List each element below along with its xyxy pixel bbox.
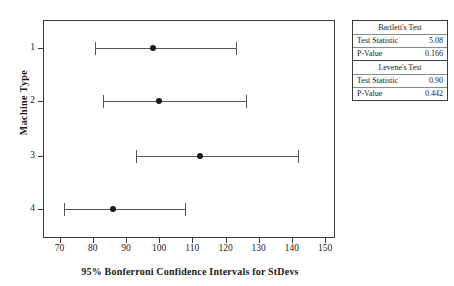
interval-cap-upper (236, 42, 237, 55)
plot-area (43, 20, 335, 238)
confidence-interval (44, 203, 336, 217)
statistics-table: Bartlett's TestTest Statistic5.08P-Value… (352, 20, 448, 101)
stats-row: P-Value0.166 (353, 47, 447, 60)
interval-cap-lower (136, 150, 137, 163)
stats-row: Test Statistic5.08 (353, 34, 447, 47)
y-tick-label: 2 (15, 96, 35, 106)
chart-container: Machine Type 1234 7080901001101201301401… (0, 0, 454, 286)
interval-cap-lower (64, 203, 65, 216)
interval-cap-lower (95, 42, 96, 55)
y-tick-label: 1 (15, 43, 35, 53)
interval-center-point (197, 153, 203, 159)
interval-cap-upper (246, 95, 247, 108)
interval-cap-upper (298, 150, 299, 163)
stats-row-label: P-Value (357, 49, 382, 59)
x-tick-label: 130 (244, 244, 274, 254)
stats-row-value: 0.442 (425, 89, 443, 99)
x-tick-label: 120 (211, 244, 241, 254)
stats-row: Test Statistic0.90 (353, 74, 447, 87)
stats-row-value: 0.166 (425, 49, 443, 59)
interval-cap-upper (185, 203, 186, 216)
stats-block: Levene's TestTest Statistic0.90P-Value0.… (353, 60, 447, 100)
confidence-interval (44, 42, 336, 56)
x-tick-label: 110 (177, 244, 207, 254)
interval-center-point (110, 206, 116, 212)
stats-row: P-Value0.442 (353, 87, 447, 100)
interval-center-point (156, 98, 162, 104)
stats-block: Bartlett's TestTest Statistic5.08P-Value… (353, 21, 447, 60)
interval-line (103, 101, 246, 102)
x-tick-label: 80 (78, 244, 108, 254)
stats-row-label: Test Statistic (357, 76, 398, 86)
stats-block-title: Bartlett's Test (353, 21, 447, 34)
y-tick-label: 4 (15, 204, 35, 214)
x-tick-label: 90 (111, 244, 141, 254)
interval-center-point (150, 45, 156, 51)
confidence-interval (44, 150, 336, 164)
x-tick-label: 140 (277, 244, 307, 254)
stats-row-label: P-Value (357, 89, 382, 99)
x-axis-title: 95% Bonferroni Confidence Intervals for … (0, 266, 380, 277)
x-tick-label: 100 (144, 244, 174, 254)
stats-row-label: Test Statistic (357, 36, 398, 46)
confidence-interval (44, 95, 336, 109)
x-tick-label: 70 (45, 244, 75, 254)
stats-row-value: 0.90 (429, 76, 443, 86)
stats-row-value: 5.08 (429, 36, 443, 46)
stats-block-title: Levene's Test (353, 61, 447, 74)
interval-cap-lower (103, 95, 104, 108)
interval-line (64, 209, 185, 210)
interval-line (136, 156, 299, 157)
x-tick-label: 150 (310, 244, 340, 254)
y-tick-label: 3 (15, 151, 35, 161)
interval-line (95, 48, 237, 49)
